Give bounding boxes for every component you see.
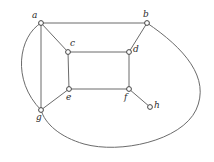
graph-vertex-a [39, 21, 44, 26]
graph-vertex-d [127, 50, 132, 55]
graph-edge-a-g-arc [21, 23, 41, 110]
graph-vertex-f [127, 87, 132, 92]
graph-edge-e-g [41, 89, 69, 110]
vertex-label-b: b [143, 10, 149, 19]
graph-vertex-c [66, 50, 71, 55]
graph-edge-c-e [68, 52, 69, 89]
vertex-label-c: c [70, 39, 75, 48]
graph-vertex-e [67, 87, 72, 92]
vertex-label-h: h [154, 101, 160, 110]
vertex-label-e: e [66, 93, 71, 102]
edges-group [21, 23, 200, 147]
vertex-label-f: f [124, 93, 127, 102]
vertex-label-a: a [32, 11, 37, 20]
graph-edge-b-g-outer [41, 23, 200, 147]
graph-vertex-b [145, 21, 150, 26]
graph-edge-a-c [41, 23, 68, 52]
graph-edge-f-h [129, 89, 150, 107]
vertex-label-d: d [133, 45, 139, 54]
graph-canvas [0, 0, 214, 162]
graph-figure: abcdefgh [0, 0, 214, 162]
vertex-label-g: g [36, 113, 42, 122]
graph-vertex-h [148, 105, 153, 110]
